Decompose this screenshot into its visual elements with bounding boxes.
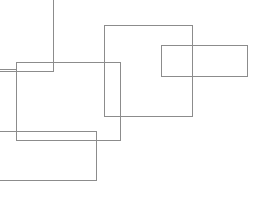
rectangles-figure	[0, 0, 274, 224]
drawing-canvas	[0, 0, 274, 224]
large-center-rectangle	[105, 26, 193, 117]
left-edge-clipped-rectangle	[0, 70, 17, 132]
bottom-left-rectangle	[0, 132, 97, 181]
top-left-clipped-rectangle	[0, 0, 54, 72]
right-wide-rectangle	[162, 46, 248, 77]
